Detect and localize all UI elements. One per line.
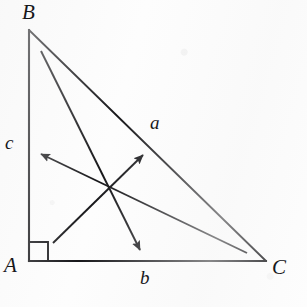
triangle-svg-canvas [0, 0, 307, 307]
side-label-c: c [5, 133, 13, 152]
side-label-b: b [140, 268, 150, 287]
vertex-label-C: C [272, 257, 286, 278]
side-label-a: a [150, 113, 160, 132]
right-angle-mark-at-A-icon [29, 242, 48, 261]
geometry-figure: B A C c b a [0, 0, 307, 307]
vector-up-left [41, 154, 247, 253]
vertex-label-B: B [22, 2, 35, 23]
vertex-label-A: A [4, 255, 17, 276]
triangle-side-a-segment-BC [29, 30, 266, 261]
vector-down-right [41, 51, 140, 250]
